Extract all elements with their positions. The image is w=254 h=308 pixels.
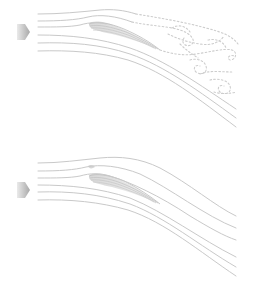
attached-flow-panel xyxy=(0,154,254,308)
stalled-flow-panel xyxy=(0,0,254,154)
arrow-right-icon xyxy=(17,24,30,40)
airfoil xyxy=(88,165,160,204)
arrow-right-icon xyxy=(17,182,30,198)
turbulent-wake xyxy=(132,14,238,94)
streamlines xyxy=(38,157,236,276)
attached-flow-diagram xyxy=(0,154,254,308)
stalled-flow-diagram xyxy=(0,0,254,154)
